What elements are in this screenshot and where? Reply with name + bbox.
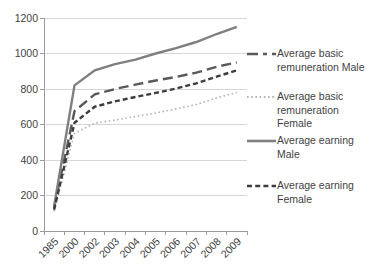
series-line-short-dash [54,70,237,209]
solid-line-icon [246,135,277,147]
x-tick-label: 2008 [198,235,223,260]
x-tick-label: 2004 [117,235,142,260]
y-tick-label: 400 [20,154,38,166]
x-tick-label: 2003 [96,235,121,260]
y-tick-label: 0 [32,225,38,237]
legend-item-average-basic-remuneration-female: Average basic remuneration Female [246,90,365,131]
x-axis-labels: 1985200020022003200420052006200720082009 [36,235,244,260]
x-tick-label: 1985 [36,235,61,260]
x-tick-label: 2009 [218,235,243,260]
legend-label: Average basic remuneration Female [277,90,365,131]
y-tick-label: 1000 [15,47,39,59]
legend-item-average-earning-male: Average earning Male [246,134,365,161]
legend-item-average-basic-remuneration-male: Average basic remuneration Male [246,47,365,74]
x-tick-label: 2000 [56,235,81,260]
legend-item-average-earning-female: Average earning Female [246,179,365,206]
chart-legend: Average basic remuneration Male Average … [246,0,374,275]
dotted-line-icon [246,91,277,103]
series-line-dotted [54,93,237,212]
line-chart: 0200400600800100012001985200020022003200… [0,0,374,275]
y-axis-labels: 020040060080010001200 [15,12,44,237]
x-tick-label: 2007 [178,235,203,260]
x-axis-ticks [44,231,247,235]
long-dash-line-icon [246,48,277,60]
gridlines [44,18,247,196]
x-tick-label: 2002 [76,235,101,260]
series-line-long-dash [54,62,237,208]
y-tick-label: 600 [20,118,38,130]
legend-label: Average earning Male [277,134,365,161]
y-tick-label: 1200 [15,12,39,24]
legend-label: Average earning Female [277,179,365,206]
x-tick-label: 2005 [137,235,162,260]
y-tick-label: 200 [20,189,38,201]
x-tick-label: 2006 [157,235,182,260]
y-tick-label: 800 [20,83,38,95]
legend-label: Average basic remuneration Male [277,47,365,74]
series-lines [54,27,237,212]
short-dash-line-icon [246,180,277,192]
